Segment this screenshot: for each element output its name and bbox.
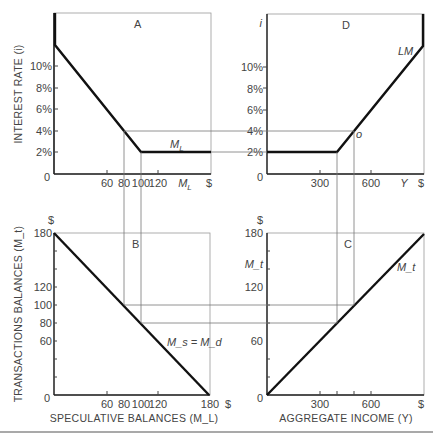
svg-text:100: 100	[132, 398, 150, 410]
svg-text:180: 180	[245, 227, 263, 239]
panel-a-y-title: INTEREST RATE (i)	[12, 44, 24, 143]
svg-text:600: 600	[362, 177, 380, 189]
panel-d: D i LM o 10% 8% 6% 4% 2% 0 300 600 Y $	[241, 14, 424, 189]
svg-text:80: 80	[40, 317, 52, 329]
panel-c-label: C	[344, 238, 352, 250]
svg-text:6%: 6%	[247, 104, 263, 116]
lm-curve-label: LM	[398, 45, 414, 57]
svg-text:M_t: M_t	[245, 258, 264, 270]
svg-text:0: 0	[257, 392, 263, 404]
svg-text:$: $	[418, 177, 424, 189]
guide-lines	[124, 131, 354, 323]
svg-text:180: 180	[201, 398, 219, 410]
mt-curve-label: M_t	[397, 261, 416, 273]
svg-text:100: 100	[34, 299, 52, 311]
svg-text:60: 60	[101, 398, 113, 410]
panel-d-frame	[267, 14, 424, 174]
svg-text:0: 0	[44, 171, 50, 183]
panel-c-y-tick-labels: 180 120 60 0	[245, 227, 263, 404]
svg-text:60: 60	[251, 335, 263, 347]
svg-text:$: $	[225, 398, 231, 410]
panel-b-y-title: TRANSACTIONS BALANCES (M_t)	[12, 226, 24, 403]
svg-text:$: $	[206, 177, 212, 189]
svg-text:80: 80	[118, 398, 130, 410]
svg-text:8%: 8%	[36, 82, 52, 94]
panel-d-x-tick-labels: 300 600 Y $	[311, 177, 424, 189]
svg-text:ML: ML	[178, 177, 192, 192]
svg-text:0: 0	[44, 392, 50, 404]
ml-curve-label: ML	[170, 138, 184, 153]
svg-text:300: 300	[311, 398, 329, 410]
panel-b-x-title: SPECULATIVE BALANCES (M_L)	[50, 412, 219, 424]
svg-text:$: $	[48, 214, 54, 226]
mt-line	[267, 234, 424, 395]
point-o-label: o	[356, 128, 362, 140]
panel-a: A ML 10% 8% 6% 4% 2% 0 60 80 100 120 ML …	[12, 13, 212, 192]
svg-text:10%: 10%	[30, 60, 52, 72]
ms-md-line	[54, 233, 209, 395]
svg-text:2%: 2%	[36, 146, 52, 158]
svg-text:120: 120	[34, 281, 52, 293]
panel-b-label: B	[132, 238, 139, 250]
svg-text:60: 60	[101, 177, 113, 189]
svg-text:120: 120	[149, 177, 167, 189]
panel-d-label: D	[342, 19, 350, 31]
panel-d-y-tick-labels: 10% 8% 6% 4% 2% 0	[241, 61, 263, 183]
svg-text:Y: Y	[400, 177, 408, 189]
panel-b: B M_s = M_d $ 180 120 100 80 60 0 60 80 …	[12, 214, 231, 424]
svg-text:i: i	[260, 17, 263, 29]
panel-c: C M_t M_t $ 180 120 60 0 300 600 $ AGGRE…	[245, 214, 424, 424]
svg-text:120: 120	[149, 398, 167, 410]
svg-text:6%: 6%	[36, 103, 52, 115]
svg-text:$: $	[418, 398, 424, 410]
ms-md-label: M_s = M_d	[167, 336, 223, 348]
panel-b-y-tick-labels: 180 120 100 80 60 0	[34, 227, 52, 404]
svg-text:8%: 8%	[247, 83, 263, 95]
panel-c-x-tick-labels: 300 600 $	[311, 398, 424, 410]
panel-a-y-tick-labels: 10% 8% 6% 4% 2% 0	[30, 60, 52, 183]
svg-text:$: $	[257, 214, 263, 226]
svg-text:0: 0	[257, 171, 263, 183]
svg-text:300: 300	[311, 177, 329, 189]
svg-text:120: 120	[245, 281, 263, 293]
svg-text:180: 180	[34, 227, 52, 239]
panel-c-x-title: AGGREGATE INCOME (Y)	[279, 412, 413, 424]
panel-a-x-tick-labels: 60 80 100 120 ML $	[101, 177, 212, 192]
four-quadrant-lm-diagram: A ML 10% 8% 6% 4% 2% 0 60 80 100 120 ML …	[0, 0, 433, 437]
svg-text:600: 600	[362, 398, 380, 410]
panel-b-x-tick-labels: 60 80 100 120 180 $	[101, 398, 231, 410]
panel-a-label: A	[134, 18, 142, 30]
svg-text:4%: 4%	[36, 125, 52, 137]
panel-a-frame	[54, 13, 211, 174]
svg-text:60: 60	[40, 335, 52, 347]
svg-text:10%: 10%	[241, 61, 263, 73]
